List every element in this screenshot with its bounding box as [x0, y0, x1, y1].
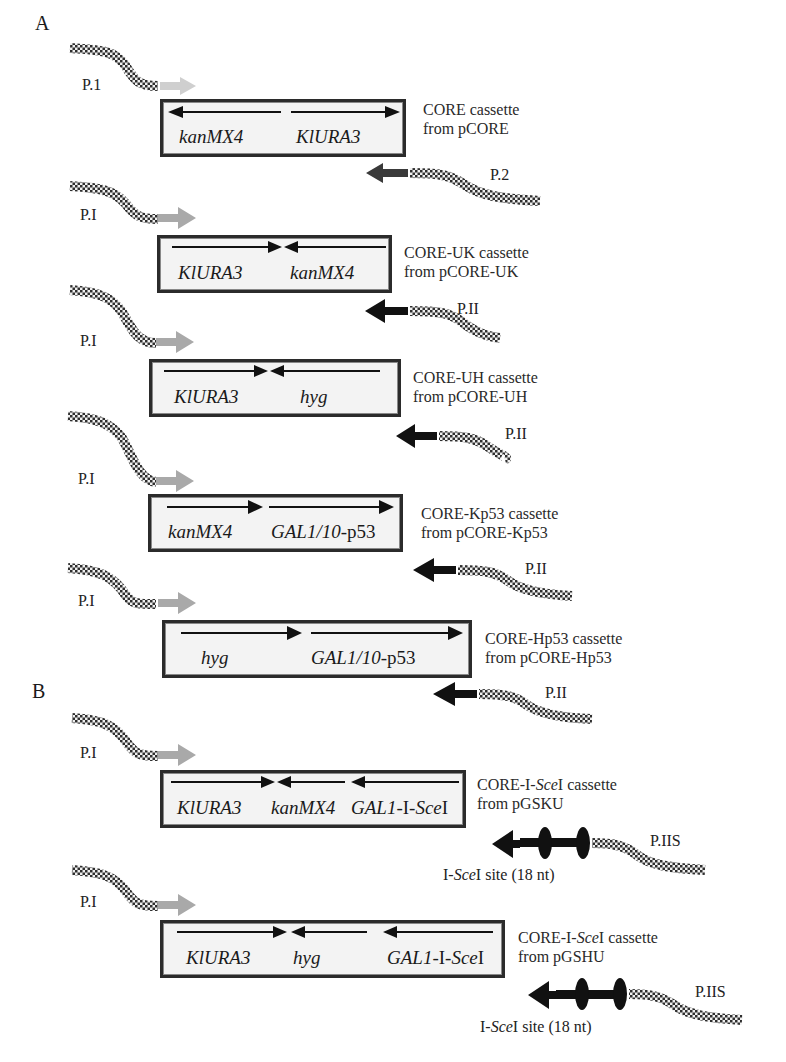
gene-kanmx4: kanMX4: [179, 126, 243, 148]
site-pre: I-: [443, 866, 454, 883]
gene-klura3: KlURA3: [177, 797, 241, 819]
caption-line1: CORE-Kp53 cassette: [421, 504, 558, 523]
caption-core-uk: CORE-UK cassette from pCORE-UK: [404, 243, 529, 281]
cassette-box-core: kanMX4 KlURA3: [160, 99, 406, 157]
scei-site-label: I-SceI site (18 nt): [443, 866, 555, 884]
caption-line2: from pCORE-UK: [404, 262, 529, 281]
caption-line2: from pGSKU: [477, 794, 617, 813]
caption-core: CORE cassette from pCORE: [423, 100, 519, 138]
primer-label-pi: P.I: [80, 206, 96, 224]
caption-core-kp53: CORE-Kp53 cassette from pCORE-Kp53: [421, 504, 558, 542]
caption-italic: Sce: [536, 776, 558, 793]
gene-suffix-end: I: [478, 947, 484, 968]
gene-suffix-italic: Sce: [415, 797, 441, 818]
reverse-arrow-icon: [492, 830, 520, 858]
primer-tail: [410, 173, 540, 201]
scei-site-right-icon: [613, 978, 627, 1010]
cassette-box-core-uh: KlURA3 hyg: [149, 359, 401, 417]
caption-line1: CORE-UK cassette: [404, 243, 529, 262]
caption-line2: from pCORE: [423, 119, 519, 138]
caption-line1: CORE-UH cassette: [413, 368, 538, 387]
primer-label-pii: P.II: [545, 684, 567, 702]
reverse-arrow-icon: [433, 682, 477, 706]
primer-label-pi: P.I: [80, 744, 96, 762]
reverse-arrow-icon: [366, 163, 408, 183]
gene-p53-suffix: -p53: [381, 647, 416, 668]
reverse-arrow-icon: [413, 558, 456, 582]
gene-kanmx4: kanMX4: [168, 521, 232, 543]
gene-klura3: KlURA3: [296, 126, 360, 148]
caption-pre: CORE-I-: [477, 776, 536, 793]
caption-pre: CORE-I-: [518, 929, 577, 946]
scei-site-left-icon: [538, 827, 552, 859]
caption-core-uh: CORE-UH cassette from pCORE-UH: [413, 368, 538, 406]
reverse-primer-pii: [365, 299, 500, 338]
caption-line1: CORE-I-SceI cassette: [477, 775, 617, 794]
reverse-arrow-icon: [365, 299, 408, 323]
cassette-box-core-scei-gsku: KlURA3 kanMX4 GAL1-I-SceI: [160, 770, 466, 828]
gene-kanmx4: kanMX4: [290, 262, 354, 284]
gene-gal1-scei: GAL1-I-SceI: [387, 947, 484, 969]
gene-klura3: KlURA3: [174, 386, 238, 408]
gene-gal1-10-p53: GAL1/10-p53: [271, 521, 376, 543]
gene-klura3: KlURA3: [186, 947, 250, 969]
reverse-primer-pii: [433, 682, 592, 719]
gene-gal1-10-p53: GAL1/10-p53: [311, 647, 416, 669]
forward-arrow-icon: [158, 592, 196, 614]
caption-core-scei-gsku: CORE-I-SceI cassette from pGSKU: [477, 775, 617, 813]
gene-gal1: GAL1: [351, 797, 396, 818]
gene-hyg: hyg: [300, 386, 327, 408]
primer-label-pi: P.I: [78, 592, 94, 610]
caption-post: I cassette: [558, 776, 617, 793]
primer-label-p1: P.1: [82, 76, 101, 94]
caption-line2: from pCORE-Kp53: [421, 523, 558, 542]
gene-hyg: hyg: [201, 647, 228, 669]
gene-kanmx4: kanMX4: [271, 797, 335, 819]
reverse-primer-p2: [366, 163, 540, 201]
site-italic: Sce: [491, 1018, 513, 1035]
gene-gal1-10: GAL1/10: [271, 521, 341, 542]
reverse-arrow-icon: [396, 424, 437, 448]
caption-line1: CORE-Hp53 cassette: [485, 629, 622, 648]
gene-suffix: -I-: [432, 947, 451, 968]
caption-line1: CORE-I-SceI cassette: [518, 928, 658, 947]
cassette-box-core-scei-gshu: KlURA3 hyg GAL1-I-SceI: [160, 920, 505, 978]
reverse-primer-pii: [396, 424, 506, 459]
forward-arrow-icon: [160, 77, 196, 95]
gene-gal1-10: GAL1/10: [311, 647, 381, 668]
gene-suffix-end: I: [442, 797, 448, 818]
gene-klura3: KlURA3: [178, 262, 242, 284]
cassette-box-core-hp53: hyg GAL1/10-p53: [162, 620, 472, 678]
gene-suffix-italic: Sce: [451, 947, 477, 968]
forward-arrow-icon: [156, 331, 194, 353]
scei-site-right-icon: [576, 827, 590, 859]
caption-post: I cassette: [599, 929, 658, 946]
primer-label-pii: P.II: [525, 560, 547, 578]
forward-arrow-icon: [158, 744, 196, 766]
primer-label-pi: P.I: [78, 470, 94, 488]
forward-arrow-icon: [156, 470, 194, 492]
primer-label-pii: P.II: [457, 300, 479, 318]
site-pre: I-: [480, 1018, 491, 1035]
caption-line2: from pCORE-UH: [413, 387, 538, 406]
forward-arrow-icon: [158, 894, 196, 916]
gene-hyg: hyg: [293, 947, 320, 969]
gene-p53-suffix: -p53: [341, 521, 376, 542]
primer-label-piis: P.IIS: [695, 983, 726, 1001]
primer-label-p2: P.2: [490, 166, 509, 184]
caption-core-hp53: CORE-Hp53 cassette from pCORE-Hp53: [485, 629, 622, 667]
caption-core-scei-gshu: CORE-I-SceI cassette from pGSHU: [518, 928, 658, 966]
site-post: I site (18 nt): [513, 1018, 592, 1035]
reverse-primer-pii: [413, 558, 572, 596]
scei-site-left-icon: [575, 978, 589, 1010]
gene-gal1-scei: GAL1-I-SceI: [351, 797, 448, 819]
site-italic: Sce: [454, 866, 476, 883]
caption-line2: from pGSHU: [518, 947, 658, 966]
caption-line2: from pCORE-Hp53: [485, 648, 622, 667]
scei-site-label: I-SceI site (18 nt): [480, 1018, 592, 1036]
caption-line1: CORE cassette: [423, 100, 519, 119]
gene-gal1: GAL1: [387, 947, 432, 968]
forward-arrow-icon: [158, 207, 196, 229]
primer-label-piis: P.IIS: [650, 832, 681, 850]
primer-label-pi: P.I: [80, 332, 96, 350]
